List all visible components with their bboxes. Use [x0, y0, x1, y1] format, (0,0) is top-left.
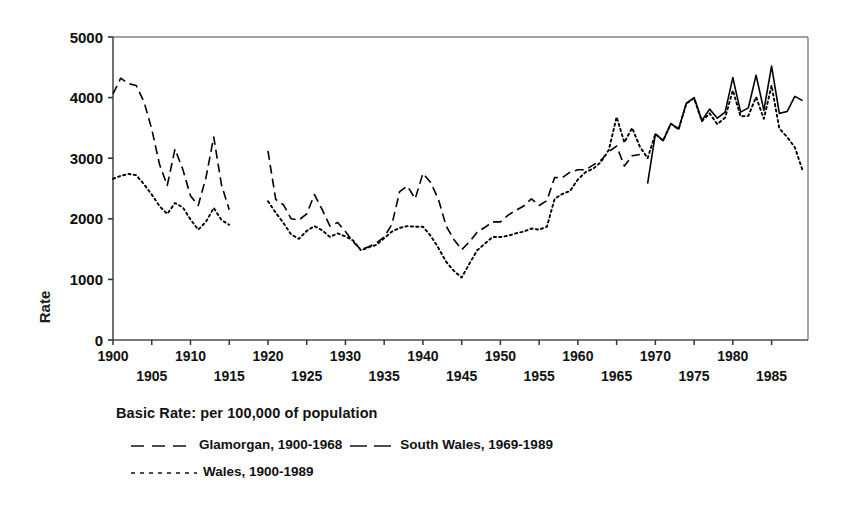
x-tick-label: 1900: [97, 348, 128, 364]
legend-label-south-wales: South Wales, 1969-1989: [400, 437, 553, 452]
x-axis-tick-labels-lower: 190519151925193519451955196519751985: [136, 368, 787, 384]
x-tick-label: 1920: [252, 348, 283, 364]
series-line-0-seg-0: [113, 78, 229, 210]
x-tick-label: 1980: [717, 348, 748, 364]
x-tick-label: 1965: [601, 368, 632, 384]
y-axis-label: Rate: [36, 291, 53, 324]
legend-label-glamorgan: Glamorgan, 1900-1968: [199, 437, 342, 452]
x-tick-label: 1975: [679, 368, 710, 384]
x-tick-label: 1950: [485, 348, 516, 364]
x-tick-label: 1945: [446, 368, 477, 384]
x-tick-label: 1910: [175, 348, 206, 364]
x-tick-label: 1940: [407, 348, 438, 364]
legend-title: Basic Rate: per 100,000 of population: [116, 405, 773, 421]
x-tick-label: 1905: [136, 368, 167, 384]
y-tick-label: 2000: [70, 210, 103, 227]
legend-label-wales: Wales, 1900-1989: [203, 464, 314, 479]
legend-swatch-dotted-icon: [131, 468, 197, 476]
x-tick-label: 1915: [214, 368, 245, 384]
legend-swatch-dashed-icon: [131, 441, 193, 449]
y-tick-label: 1000: [70, 271, 103, 288]
y-tick-label: 4000: [70, 89, 103, 106]
y-axis-tick-labels: 010002000300040005000: [70, 29, 103, 349]
x-axis-tick-labels-upper: 190019101920193019401950196019701980: [97, 348, 748, 364]
series-line-2-seg-0: [113, 174, 229, 230]
legend-swatch-longdash-icon: [350, 441, 394, 449]
x-tick-label: 1960: [562, 348, 593, 364]
plot-frame: [113, 37, 808, 340]
chart-legend: Basic Rate: per 100,000 of population Gl…: [113, 405, 773, 491]
chart-series-lines: [113, 66, 803, 277]
y-tick-label: 5000: [70, 29, 103, 46]
x-tick-label: 1970: [640, 348, 671, 364]
x-tick-label: 1925: [291, 368, 322, 384]
x-tick-label: 1935: [369, 368, 400, 384]
chart-figure: 010002000300040005000 190019101920193019…: [0, 0, 851, 513]
legend-row-wales: Wales, 1900-1989: [131, 464, 773, 479]
y-tick-label: 3000: [70, 150, 103, 167]
series-line-0-seg-1: [268, 146, 640, 250]
legend-row-glamorgan-southwales: Glamorgan, 1900-1968 South Wales, 1969-1…: [131, 437, 773, 452]
x-tick-label: 1985: [756, 368, 787, 384]
x-tick-label: 1955: [524, 368, 555, 384]
x-tick-label: 1930: [330, 348, 361, 364]
y-tick-label: 0: [95, 332, 103, 349]
